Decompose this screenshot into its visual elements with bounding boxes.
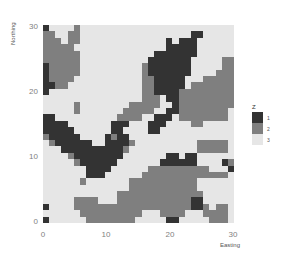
- heatmap-cell: [228, 217, 234, 223]
- legend-title: Z: [252, 104, 270, 110]
- y-tick-20: 20: [24, 88, 38, 96]
- x-tick-30: 30: [223, 230, 243, 239]
- y-tick-30: 30: [24, 23, 38, 31]
- x-tick-0: 0: [33, 230, 53, 239]
- x-tick-20: 20: [160, 230, 180, 239]
- legend-entry-1: 1: [252, 112, 270, 123]
- legend-swatch-1: [252, 112, 263, 123]
- x-tick-10: 10: [96, 230, 116, 239]
- legend-swatch-3: [252, 134, 263, 145]
- legend-entry-2: 2: [252, 123, 270, 134]
- y-axis-label: Northing: [10, 22, 16, 45]
- legend-entry-3: 3: [252, 134, 270, 145]
- y-tick-10: 10: [24, 153, 38, 161]
- x-axis-label: Easting: [220, 242, 240, 248]
- heatmap-plot-area: [43, 25, 234, 223]
- legend: Z 1 2 3: [252, 104, 270, 145]
- legend-label-2: 2: [267, 126, 270, 132]
- legend-label-1: 1: [267, 115, 270, 121]
- y-tick-0: 0: [24, 218, 38, 226]
- legend-swatch-2: [252, 123, 263, 134]
- heatmap-grid: [43, 25, 234, 223]
- legend-label-3: 3: [267, 137, 270, 143]
